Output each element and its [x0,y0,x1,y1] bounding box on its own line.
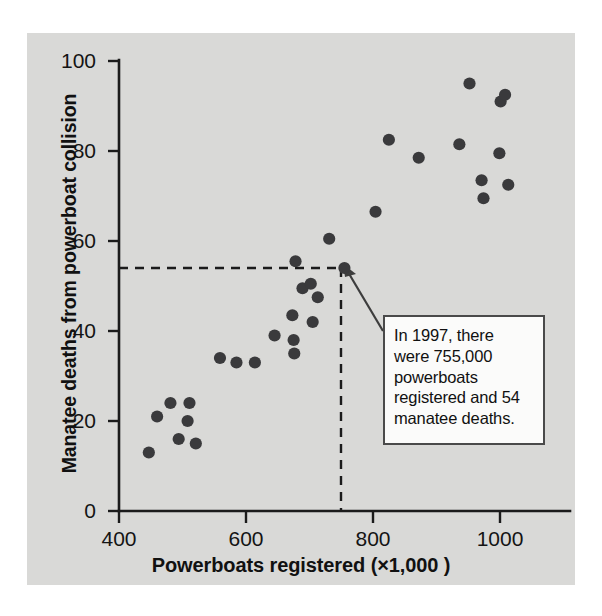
callout-line-4: registered and 54 [394,387,535,408]
data-point [288,347,300,359]
data-point [499,89,511,101]
data-point [307,316,319,328]
data-point [477,192,489,204]
x-tick-label-800: 800 [333,527,413,551]
data-point [288,334,300,346]
data-point [463,77,475,89]
callout-line-5: manatee deaths. [394,408,535,429]
data-point [183,397,195,409]
annotation-callout-box: In 1997, there were 755,000 powerboats r… [383,315,545,445]
x-tick-label-1000: 1000 [460,527,540,551]
y-tick-label-100: 100 [42,49,96,73]
data-point [312,291,324,303]
data-point [338,262,350,274]
data-point [268,329,280,341]
data-point [369,206,381,218]
callout-line-3: powerboats [394,367,535,388]
data-point [286,309,298,321]
x-axis-label: Powerboats registered (×1,000 ) [27,554,575,577]
x-tick-label-400: 400 [79,527,159,551]
data-point [214,352,226,364]
data-point [453,138,465,150]
axes-group [108,60,570,523]
data-point [383,134,395,146]
y-axis-label: Manatee deaths from powerboat collision [58,74,81,494]
x-tick-label-600: 600 [206,527,286,551]
data-point [173,433,185,445]
data-point [230,356,242,368]
scatterplot-figure: 100 80 60 40 20 0 400 600 800 1000 Manat… [0,0,602,616]
y-tick-label-0: 0 [42,499,96,523]
data-point [289,255,301,267]
data-point [475,174,487,186]
data-point [323,233,335,245]
data-point [164,397,176,409]
data-point [143,446,155,458]
data-point [305,278,317,290]
data-point [502,179,514,191]
callout-line-1: In 1997, there [394,325,535,346]
guide-lines-group [119,268,341,511]
data-point [190,437,202,449]
callout-leader-line [348,272,383,331]
plot-canvas [0,0,602,616]
callout-leader-group [343,264,383,331]
data-point [249,356,261,368]
callout-line-2: were 755,000 [394,346,535,367]
data-point [493,147,505,159]
data-point [181,415,193,427]
data-point [151,410,163,422]
data-point [413,152,425,164]
